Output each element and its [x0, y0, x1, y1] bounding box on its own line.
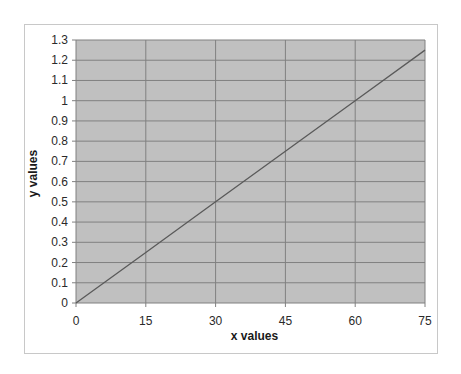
x-tick-label: 30 [209, 314, 223, 328]
y-tick-label: 0.5 [51, 195, 68, 209]
x-tick-label: 0 [73, 314, 80, 328]
x-tick-label: 75 [418, 314, 432, 328]
y-tick-label: 0.1 [51, 276, 68, 290]
plot-area [76, 40, 425, 303]
x-tick-label: 60 [349, 314, 363, 328]
y-tick-label: 1.1 [51, 73, 68, 87]
x-tick-label: 15 [139, 314, 153, 328]
y-tick-label: 0 [61, 296, 68, 310]
y-tick-label: 1.3 [51, 33, 68, 47]
y-tick-label: 0.7 [51, 154, 68, 168]
x-axis-title: x values [231, 329, 279, 343]
y-tick-label: 0.2 [51, 256, 68, 270]
line-chart: 00.10.20.30.40.50.60.70.80.911.11.21.3 0… [0, 0, 461, 374]
y-tick-label: 0.6 [51, 175, 68, 189]
y-tick-label: 0.8 [51, 134, 68, 148]
x-axis-ticks: 01530456075 [73, 314, 432, 328]
y-tick-label: 0.4 [51, 215, 68, 229]
y-tick-label: 1 [61, 94, 68, 108]
x-tick-label: 45 [279, 314, 293, 328]
y-tick-label: 1.2 [51, 53, 68, 67]
y-axis-title: y values [26, 149, 40, 197]
y-axis-ticks: 00.10.20.30.40.50.60.70.80.911.11.21.3 [51, 33, 68, 310]
y-tick-label: 0.3 [51, 235, 68, 249]
y-tick-label: 0.9 [51, 114, 68, 128]
